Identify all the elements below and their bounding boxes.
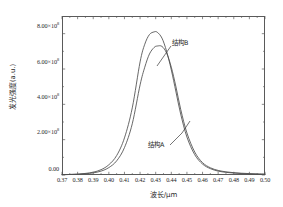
chart-figure: 8.00×108 6.00×108 4.00×108 2.00×108 0.00… (0, 0, 283, 207)
axis-tick-marks (62, 16, 265, 175)
plot-svg-overlay (0, 0, 283, 207)
data-curves (62, 32, 265, 175)
